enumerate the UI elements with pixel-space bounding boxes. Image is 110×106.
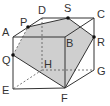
edge-he (13, 70, 42, 89)
label-q: Q (2, 54, 11, 66)
point-r (92, 35, 96, 39)
label-b: B (66, 37, 73, 49)
label-g: G (97, 65, 106, 77)
edge-fe (13, 88, 65, 89)
label-d: D (38, 4, 46, 16)
label-c: C (97, 8, 105, 20)
label-p: P (20, 16, 27, 28)
label-r: R (97, 36, 105, 48)
label-f: F (61, 92, 68, 104)
point-s (66, 16, 70, 20)
point-q (11, 53, 15, 57)
label-e: E (2, 84, 9, 96)
label-s: S (64, 2, 71, 14)
label-a: A (2, 26, 10, 38)
label-h: H (44, 58, 52, 70)
cube-section-diagram: ABCDEFGHPSRQ (0, 0, 110, 106)
